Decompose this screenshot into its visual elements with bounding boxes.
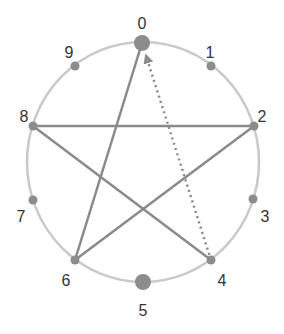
- node-label-7: 7: [17, 208, 26, 225]
- node-label-3: 3: [261, 208, 270, 225]
- node-9: [71, 62, 80, 71]
- node-label-1: 1: [206, 44, 215, 61]
- circular-graph-diagram: 0123456789: [0, 0, 284, 334]
- node-label-6: 6: [62, 272, 71, 289]
- nodes-group: [29, 35, 259, 290]
- node-8: [29, 122, 38, 131]
- labels-group: 0123456789: [17, 15, 270, 319]
- node-0: [134, 35, 150, 51]
- node-label-9: 9: [65, 44, 74, 61]
- edge-8-4: [33, 126, 211, 260]
- node-4: [207, 256, 216, 265]
- node-1: [207, 62, 216, 71]
- edges-group: [33, 43, 254, 260]
- node-label-0: 0: [138, 15, 147, 32]
- edge-0-6: [75, 43, 142, 260]
- node-5: [135, 274, 151, 290]
- node-7: [29, 196, 38, 205]
- node-label-5: 5: [139, 302, 148, 319]
- node-6: [71, 256, 80, 265]
- node-label-4: 4: [218, 272, 227, 289]
- edge-6-2: [75, 126, 254, 260]
- node-label-2: 2: [258, 108, 267, 125]
- edge-4-0-dotted-arrow: [146, 55, 211, 260]
- node-3: [249, 195, 258, 204]
- node-label-8: 8: [20, 108, 29, 125]
- circle-ring: [27, 42, 259, 282]
